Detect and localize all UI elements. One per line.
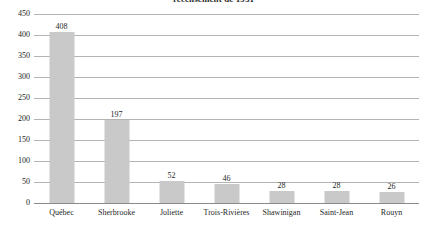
bar-group: 26 [364,10,419,207]
bar[interactable] [379,192,404,203]
x-tick-label: Joliette [160,209,183,217]
y-tick-label: 450 [0,10,30,18]
x-tick-label: Trois-Rivières [204,209,250,217]
bar[interactable] [159,181,184,203]
bar-value-label: 28 [278,182,286,190]
y-tick-label: 0 [0,199,30,207]
bar-value-label: 52 [168,172,176,180]
bar-value-label: 46 [223,175,231,183]
plot-area: 4081975246282826 [34,10,419,207]
y-tick-label: 400 [0,31,30,39]
y-tick-label: 50 [0,178,30,186]
y-tick-label: 150 [0,136,30,144]
bar-group: 197 [89,10,144,207]
x-tick-label: Saint-Jean [320,209,353,217]
bar-group: 46 [199,10,254,207]
bar-group: 28 [254,10,309,207]
x-tick-label: Québec [49,209,73,217]
y-axis-tick-labels: 050100150200250300350400450 [0,10,30,207]
bar-series: 4081975246282826 [34,10,419,207]
y-tick-label: 200 [0,115,30,123]
bar-chart: recensement de 1931 05010015020025030035… [0,0,427,235]
bar[interactable] [214,184,239,203]
bar-group: 408 [34,10,89,207]
bar[interactable] [324,191,349,203]
bar[interactable] [49,32,74,203]
bar-value-label: 26 [388,183,396,191]
bar-value-label: 28 [333,182,341,190]
bar-group: 28 [309,10,364,207]
x-axis-tick-labels: QuébecSherbrookeJolietteTrois-RivièresSh… [34,206,419,226]
x-tick-label: Sherbrooke [98,209,135,217]
bar[interactable] [269,191,294,203]
bar-value-label: 408 [56,23,68,31]
x-tick-label: Rouyn [381,209,402,217]
chart-title: recensement de 1931 [0,0,427,3]
bar[interactable] [104,120,129,203]
bar-value-label: 197 [111,111,123,119]
y-tick-label: 250 [0,94,30,102]
y-tick-label: 300 [0,73,30,81]
bar-group: 52 [144,10,199,207]
x-tick-label: Shawinigan [263,209,301,217]
y-tick-label: 350 [0,52,30,60]
y-tick-label: 100 [0,157,30,165]
